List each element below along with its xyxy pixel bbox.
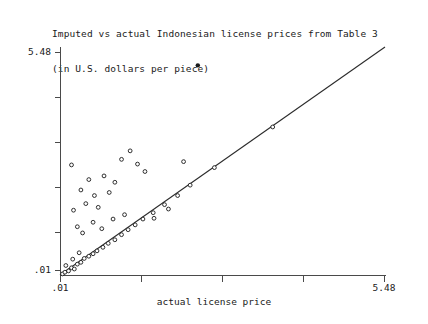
x-axis-label-min: .01 — [40, 283, 80, 293]
x-axis-title: actual license price — [0, 296, 428, 307]
y-axis-tick-minor-4 — [55, 232, 61, 233]
x-axis-line — [60, 275, 386, 276]
scatter-point — [106, 241, 110, 245]
scatter-point — [91, 220, 95, 224]
scatter-point — [120, 233, 124, 237]
scatter-point — [72, 267, 76, 271]
scatter-point — [136, 162, 140, 166]
x-axis-tick-minor-3 — [303, 276, 304, 282]
scatter-point — [101, 245, 105, 249]
y-axis-tick-max — [55, 52, 61, 53]
scatter-point — [70, 266, 74, 270]
scatter-point — [271, 125, 275, 129]
y-axis-tick-minor-1 — [55, 97, 61, 98]
scatter-point — [163, 203, 167, 207]
scatter-point — [96, 205, 100, 209]
y-axis-tick-minor-2 — [55, 142, 61, 143]
y-axis-tick-min — [55, 270, 61, 271]
y-axis-line — [60, 47, 61, 276]
scatter-point — [182, 160, 186, 164]
scatter-point — [141, 217, 145, 221]
y-axis-label-max: 5.48 — [2, 47, 51, 57]
scatter-point — [93, 194, 97, 198]
scatter-point — [70, 163, 74, 167]
scatter-point — [102, 174, 106, 178]
scatter-point — [75, 225, 79, 229]
scatter-point — [95, 249, 99, 253]
x-axis-tick-minor-2 — [222, 276, 223, 282]
chart-title: Imputed vs actual Indonesian license pri… — [52, 5, 392, 97]
x-axis-tick-minor-1 — [141, 276, 142, 282]
scatter-point — [113, 238, 117, 242]
scatter-point — [71, 257, 75, 261]
chart-title-line-2: (in U.S. dollars per piece) — [52, 63, 392, 75]
scatter-point — [79, 188, 83, 192]
scatter-point — [143, 170, 147, 174]
scatter-point — [133, 223, 137, 227]
scatter-point — [75, 262, 79, 266]
scatter-point — [128, 149, 132, 153]
scatter-point — [126, 228, 130, 232]
x-axis-label-max: 5.48 — [364, 283, 404, 293]
scatter-point — [111, 217, 115, 221]
scatter-point — [72, 208, 76, 212]
scatter-point — [188, 183, 192, 187]
chart-page: Imputed vs actual Indonesian license pri… — [0, 0, 428, 324]
scatter-point — [167, 207, 171, 211]
scatter-point — [82, 257, 86, 261]
scatter-point — [123, 213, 127, 217]
scatter-point — [67, 269, 71, 273]
scatter-point — [79, 260, 83, 264]
scatter-point — [151, 211, 155, 215]
scatter-point — [64, 264, 68, 268]
scatter-point — [81, 231, 85, 235]
scatter-point — [87, 178, 91, 182]
scatter-point — [120, 157, 124, 161]
scatter-point — [152, 216, 156, 220]
scatter-point — [84, 202, 88, 206]
y-axis-label-min: .01 — [2, 265, 51, 275]
chart-title-line-1: Imputed vs actual Indonesian license pri… — [52, 28, 392, 40]
scatter-point — [63, 270, 67, 274]
scatter-point — [113, 180, 117, 184]
scatter-point — [91, 252, 95, 256]
scatter-point — [87, 254, 91, 258]
y-axis-tick-minor-3 — [55, 187, 61, 188]
scatter-point — [107, 191, 111, 195]
scatter-point — [77, 251, 81, 255]
scatter-point — [176, 194, 180, 198]
scatter-point — [100, 227, 104, 231]
scatter-point — [212, 166, 216, 170]
